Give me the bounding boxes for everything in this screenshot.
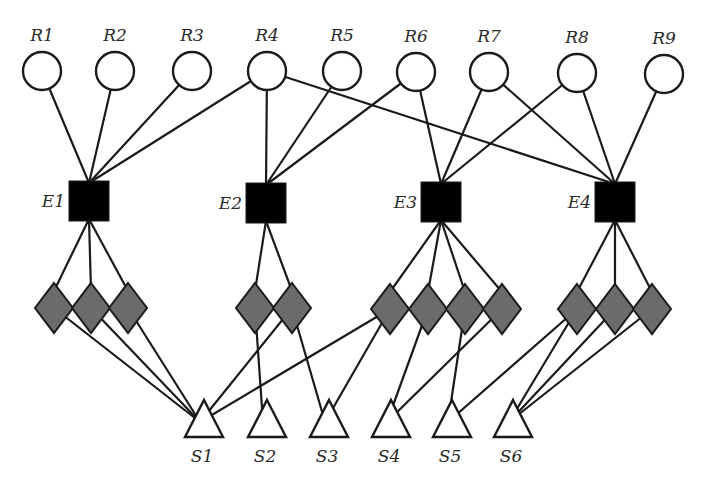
diamond-node-e1-d1 xyxy=(35,283,73,333)
circle-shape xyxy=(173,52,211,90)
circle-shape xyxy=(397,53,435,91)
resource-node-r9: R9 xyxy=(645,28,683,93)
edge-E1-E1-D1 xyxy=(54,219,89,291)
diamond-node-e3-d1 xyxy=(371,284,409,334)
network-diagram: R1R2R3R4R5R6R7R8R9 E1E2E3E4 S1S2S3S4S5S6 xyxy=(0,0,707,487)
resource-label: R7 xyxy=(476,26,501,46)
sink-label: S4 xyxy=(378,446,400,466)
circle-shape xyxy=(558,54,596,92)
circle-shape xyxy=(323,52,361,90)
entity-node-e2: E2 xyxy=(218,183,286,223)
resource-label: R3 xyxy=(179,25,204,45)
sink-node-s6: S6 xyxy=(494,400,532,466)
edge-E4-E4-D1 xyxy=(577,220,615,292)
diamond-node-e1-d3 xyxy=(109,283,147,333)
sink-node-s5: S5 xyxy=(433,400,471,466)
edge-E2-E2-D1 xyxy=(255,221,266,291)
edge-R4-E4 xyxy=(267,71,615,184)
circle-shape xyxy=(248,52,286,90)
resource-nodes: R1R2R3R4R5R6R7R8R9 xyxy=(23,25,683,93)
entity-node-e3: E3 xyxy=(393,182,461,222)
resource-node-r7: R7 xyxy=(470,26,508,91)
entity-label: E3 xyxy=(393,192,417,212)
edge-E3-D1-S3 xyxy=(325,309,390,422)
diamond-node-e2-d1 xyxy=(236,283,274,333)
sink-node-s3: S3 xyxy=(310,400,348,466)
edge-E4-E4-D3 xyxy=(615,220,652,292)
triangle-shape xyxy=(494,400,532,437)
resource-label: R4 xyxy=(254,25,279,45)
resource-node-r1: R1 xyxy=(23,25,61,90)
edge-E3-D4-S4 xyxy=(387,309,502,422)
sink-nodes: S1S2S3S4S5S6 xyxy=(185,400,532,466)
diamond-nodes xyxy=(35,283,671,334)
sink-label: S5 xyxy=(439,446,461,466)
resource-label: R9 xyxy=(651,28,676,48)
resource-label: R2 xyxy=(102,25,127,45)
resource-node-r8: R8 xyxy=(558,27,596,92)
diamond-node-e3-d4 xyxy=(483,284,521,334)
square-shape xyxy=(595,182,635,222)
sink-node-s1: S1 xyxy=(185,400,223,466)
sink-label: S6 xyxy=(500,446,523,466)
edge-E3-E3-D4 xyxy=(441,220,502,292)
edge-E1-D3-S1 xyxy=(128,308,200,422)
resource-label: R6 xyxy=(403,26,428,46)
edge-E3-E3-D3 xyxy=(441,220,465,292)
diamond-node-e3-d2 xyxy=(409,284,447,334)
sink-label: S2 xyxy=(254,446,276,466)
triangle-shape xyxy=(310,400,348,437)
circle-shape xyxy=(23,52,61,90)
resource-label: R5 xyxy=(329,25,354,45)
resource-node-r2: R2 xyxy=(96,25,134,90)
resource-label: R1 xyxy=(29,25,54,45)
sink-node-s2: S2 xyxy=(248,400,286,466)
sink-node-s4: S4 xyxy=(372,400,410,466)
diamond-sink-edges xyxy=(54,308,652,422)
resource-node-r5: R5 xyxy=(323,25,361,90)
sink-label: S3 xyxy=(316,446,338,466)
circle-shape xyxy=(96,52,134,90)
entity-label: E4 xyxy=(567,192,591,212)
edge-E4-D2-S6 xyxy=(509,309,615,422)
edge-E1-D2-S1 xyxy=(91,308,200,422)
circle-shape xyxy=(645,55,683,93)
resource-node-r3: R3 xyxy=(173,25,211,90)
entity-nodes: E1E2E3E4 xyxy=(41,181,635,223)
entity-node-e4: E4 xyxy=(567,182,635,222)
diamond-node-e4-d1 xyxy=(558,284,596,334)
resource-label: R8 xyxy=(564,27,589,47)
edge-E2-E2-D2 xyxy=(266,221,292,291)
edge-E3-E3-D1 xyxy=(390,220,441,292)
entity-diamond-edges xyxy=(54,219,652,292)
resource-node-r4: R4 xyxy=(248,25,286,90)
sink-label: S1 xyxy=(191,446,213,466)
entity-label: E1 xyxy=(41,191,65,211)
entity-label: E2 xyxy=(218,193,242,213)
square-shape xyxy=(421,182,461,222)
square-shape xyxy=(246,183,286,223)
edge-E4-D1-S6 xyxy=(509,309,577,422)
edge-E1-E1-D2 xyxy=(89,219,91,291)
edge-E1-E1-D3 xyxy=(89,219,128,291)
edge-E2-D2-S1 xyxy=(200,308,292,422)
circle-shape xyxy=(470,53,508,91)
diamond-node-e4-d3 xyxy=(633,284,671,334)
triangle-shape xyxy=(248,400,286,437)
entity-node-e1: E1 xyxy=(41,181,109,221)
diamond-node-e3-d3 xyxy=(446,284,484,334)
resource-node-r6: R6 xyxy=(397,26,435,91)
square-shape xyxy=(69,181,109,221)
